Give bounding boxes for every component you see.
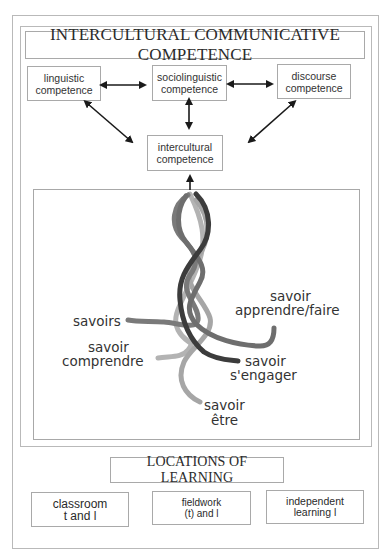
label-comprendre-1: savoir bbox=[88, 340, 129, 354]
double-arrows bbox=[88, 84, 292, 190]
label-etre-1: savoir bbox=[204, 398, 245, 412]
location-independent-box: independent learning l bbox=[266, 490, 364, 524]
independent-label-2: learning l bbox=[294, 507, 337, 518]
arrow-discourse-intercultural bbox=[249, 104, 292, 142]
arrow-linguistic-intercultural bbox=[88, 104, 132, 142]
label-etre-2: être bbox=[211, 413, 238, 427]
label-comprendre-2: comprendre bbox=[62, 354, 144, 368]
locations-title: LOCATIONS OF LEARNING bbox=[111, 454, 283, 486]
classroom-label-2: t and l bbox=[64, 510, 97, 522]
label-apprendre-1: savoir bbox=[270, 289, 311, 303]
label-savoirs: savoirs bbox=[73, 314, 121, 328]
label-apprendre-2: apprendre/faire bbox=[235, 303, 340, 317]
classroom-label-1: classroom bbox=[53, 498, 108, 510]
location-classroom-box: classroom t and l bbox=[31, 492, 129, 527]
label-engager-1: savoir bbox=[245, 354, 286, 368]
fieldwork-label-2: (t) and l bbox=[185, 508, 219, 519]
locations-title-box: LOCATIONS OF LEARNING bbox=[110, 457, 284, 483]
location-fieldwork-box: fieldwork (t) and l bbox=[152, 491, 251, 525]
fieldwork-label-1: fieldwork bbox=[182, 497, 221, 508]
label-engager-2: s'engager bbox=[230, 368, 297, 382]
